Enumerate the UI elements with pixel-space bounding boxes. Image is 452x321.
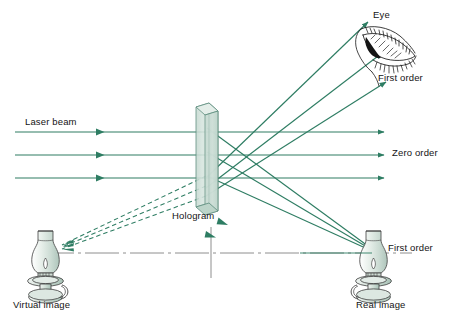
label-first-order-bottom: First order	[388, 243, 433, 253]
label-zero-order: Zero order	[392, 148, 438, 158]
label-hologram: Hologram	[172, 211, 214, 221]
label-virtual-image: Virtual image	[13, 300, 70, 310]
holography-diagram: Laser beam Hologram Eye First order Zero…	[0, 0, 452, 321]
incident-beam-arrowheads	[96, 129, 105, 182]
first-order-up-beams	[206, 22, 386, 196]
label-eye: Eye	[373, 10, 390, 20]
label-laser-beam: Laser beam	[25, 117, 77, 127]
virtual-image-lamp	[28, 231, 68, 303]
zero-order-beams	[206, 132, 384, 178]
first-order-down-beams	[207, 128, 372, 251]
optical-axis	[40, 227, 412, 278]
hologram-plate	[196, 103, 218, 215]
label-first-order-top: First order	[378, 73, 423, 83]
virtual-image-ray-arrowheads	[63, 239, 75, 251]
label-real-image: Real image	[356, 300, 406, 310]
incident-laser-beams	[15, 132, 205, 178]
diagram-canvas	[0, 0, 452, 321]
